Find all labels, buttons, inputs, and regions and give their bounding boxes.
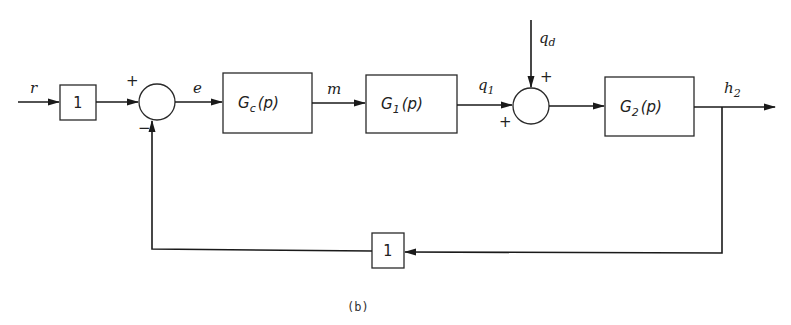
signal-h2-label: h2 bbox=[724, 79, 741, 100]
signal-m-label: m bbox=[327, 80, 341, 98]
sum1-minus-sign: − bbox=[138, 119, 151, 137]
signal-r-label: r bbox=[30, 79, 38, 97]
summing-junction-1 bbox=[139, 84, 175, 120]
process2-block-label: G2(p) bbox=[620, 98, 662, 119]
sum2-top-plus-sign: + bbox=[540, 68, 553, 86]
block-diagram: r 1 + − e Gc(p) m G1(p) q1 + + qd G2(p) … bbox=[0, 0, 791, 325]
signal-e-label: e bbox=[193, 79, 202, 97]
summing-junction-2 bbox=[513, 88, 549, 124]
signal-q1-label: q1 bbox=[478, 76, 495, 97]
controller-block-label: Gc(p) bbox=[238, 94, 279, 115]
input-gain-label: 1 bbox=[73, 94, 82, 112]
process1-block-label: G1(p) bbox=[381, 95, 423, 116]
signal-qd-label: qd bbox=[539, 29, 556, 49]
sum2-left-plus-sign: + bbox=[499, 113, 512, 131]
figure-caption: (b) bbox=[347, 300, 369, 314]
sum1-plus-sign: + bbox=[126, 72, 139, 90]
feedback-to-sum1-arrow bbox=[152, 121, 372, 251]
feedback-gain-label: 1 bbox=[383, 242, 392, 260]
